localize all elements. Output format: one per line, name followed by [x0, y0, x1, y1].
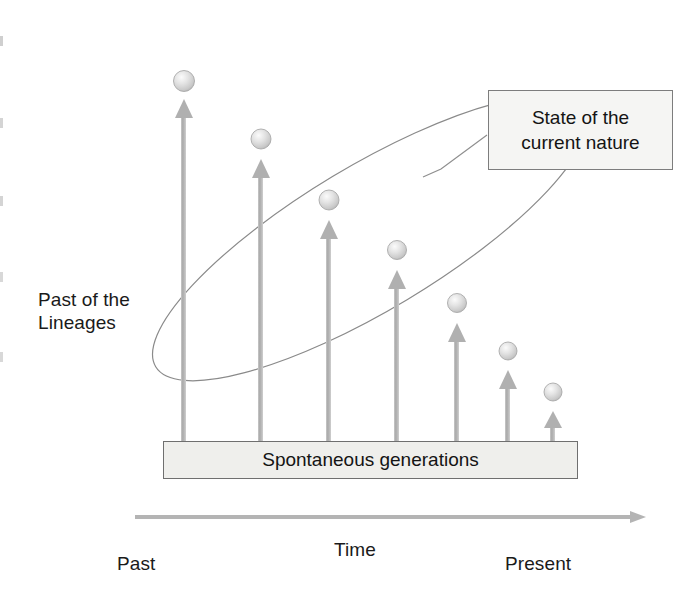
lineage-arrow-1	[175, 99, 193, 442]
past-of-lineages-label: Past of the Lineages	[38, 288, 130, 334]
lineage-sphere-2	[251, 129, 271, 149]
spontaneous-generations-label: Spontaneous generations	[262, 449, 479, 471]
lineage-sphere-1	[174, 71, 195, 92]
past-label: Past	[117, 552, 155, 575]
page-edge-marks	[0, 36, 3, 362]
callout-line-1: State of the	[532, 105, 629, 130]
state-of-current-nature-callout: State of the current nature	[488, 90, 673, 170]
callout-line-2: current nature	[521, 130, 639, 155]
lineage-arrow-6	[499, 370, 517, 442]
lineage-arrow-4	[388, 270, 406, 442]
lineage-arrow-5	[448, 323, 466, 442]
spontaneous-generations-box: Spontaneous generations	[163, 441, 578, 479]
present-label: Present	[505, 552, 571, 575]
lineage-arrow-2	[252, 159, 270, 442]
callout-leader-line	[423, 135, 487, 177]
lineage-arrow-7	[544, 411, 562, 442]
lineage-sphere-4	[388, 241, 407, 260]
time-axis-arrow	[135, 511, 646, 523]
time-label: Time	[334, 538, 376, 561]
lineage-sphere-6	[499, 342, 517, 360]
lineage-sphere-7	[544, 383, 562, 401]
lineage-sphere-5	[448, 294, 467, 313]
lineage-sphere-3	[319, 190, 339, 210]
diagram-canvas: Spontaneous generations State of the cur…	[0, 0, 698, 602]
lineage-arrow-3	[320, 220, 338, 442]
